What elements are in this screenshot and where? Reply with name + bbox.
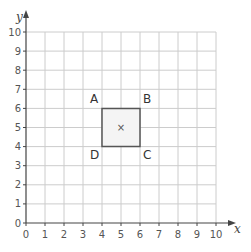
y-tick-label: 7: [15, 84, 21, 95]
x-tick-label: 8: [175, 229, 181, 240]
x-tick-label: 3: [80, 229, 86, 240]
x-tick-label: 9: [194, 229, 200, 240]
y-tick-label: 0: [15, 218, 21, 229]
vertex-label-b: B: [143, 92, 151, 106]
x-tick-label: 2: [61, 229, 67, 240]
coordinate-grid: 012345678910012345678910xyABCD×: [0, 0, 251, 252]
x-tick-label: 6: [137, 229, 143, 240]
vertex-label-a: A: [90, 92, 99, 106]
y-tick-label: 2: [15, 179, 21, 190]
y-axis-arrow-icon: [23, 10, 29, 18]
y-tick-label: 8: [15, 65, 21, 76]
center-mark-icon: ×: [117, 122, 125, 133]
x-tick-label: 0: [23, 229, 29, 240]
y-tick-label: 10: [8, 27, 21, 38]
vertex-label-c: C: [143, 148, 151, 162]
y-axis-label: y: [15, 10, 23, 24]
x-axis-label: x: [234, 222, 241, 236]
x-tick-label: 4: [99, 229, 105, 240]
y-tick-label: 1: [15, 198, 21, 209]
x-tick-label: 5: [118, 229, 124, 240]
vertex-label-d: D: [90, 148, 99, 162]
y-tick-label: 3: [15, 160, 21, 171]
y-tick-label: 6: [15, 103, 21, 114]
x-tick-label: 1: [42, 229, 48, 240]
y-tick-label: 5: [15, 122, 21, 133]
y-tick-label: 9: [15, 46, 21, 57]
x-tick-label: 10: [210, 229, 223, 240]
x-tick-label: 7: [156, 229, 162, 240]
y-tick-label: 4: [15, 141, 21, 152]
